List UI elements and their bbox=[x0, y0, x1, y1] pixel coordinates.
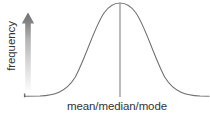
up-arrow-icon bbox=[22, 13, 34, 91]
y-axis-label: frequency bbox=[5, 15, 17, 77]
normal-distribution-figure: frequency mean/median/mode bbox=[0, 0, 210, 117]
x-axis-label: mean/median/mode bbox=[24, 99, 210, 113]
bell-curve-path bbox=[25, 3, 209, 96]
